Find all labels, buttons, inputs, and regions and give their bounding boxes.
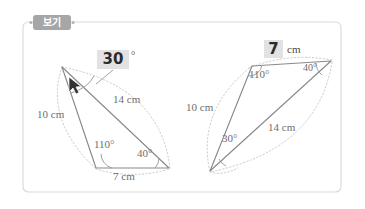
- left-angle-110-label: 110°: [94, 138, 115, 150]
- left-angle-leader-line: [96, 70, 113, 84]
- right-answer-unit-cm: cm: [287, 43, 300, 55]
- left-answer-degree-symbol: °: [131, 49, 135, 61]
- figure-panel: 보기 30 ° 14 cm 10 cm 110° 40° 7 cm 7 cm 1…: [0, 0, 365, 209]
- left-side-14cm-label: 14 cm: [113, 93, 140, 105]
- left-answer-highlight-30: 30: [97, 50, 129, 69]
- left-angle-40-arc: [155, 158, 159, 168]
- right-angle-40-label: 40°: [303, 62, 317, 73]
- left-side-7cm-label: 7 cm: [113, 170, 135, 182]
- right-triangle-group: [207, 57, 332, 173]
- right-side-10cm-label: 10 cm: [186, 101, 213, 113]
- right-side-14cm-label: 14 cm: [268, 121, 295, 133]
- right-answer-highlight-7: 7: [264, 40, 283, 58]
- left-angle-110-arc: [101, 154, 112, 168]
- left-side-10cm-label: 10 cm: [37, 108, 64, 120]
- left-triangle-outline: [62, 67, 169, 168]
- right-angle-30-label: 30°: [222, 132, 237, 144]
- panel-tab-label: 보기: [33, 15, 71, 30]
- right-triangle-outline: [210, 61, 331, 171]
- geometry-diagram: [0, 0, 365, 209]
- right-angle-110-label: 110°: [249, 68, 270, 80]
- left-angle-40-label: 40°: [137, 147, 152, 159]
